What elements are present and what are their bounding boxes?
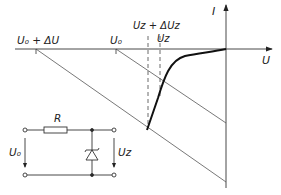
label-uz-plus-duz: Uᴢ + ΔUᴢ <box>133 20 180 31</box>
load-line-u0 <box>116 49 226 123</box>
load-line-u0-plus-du <box>36 49 226 182</box>
zener-diode-symbol <box>86 150 98 160</box>
zener-circuit <box>23 127 116 177</box>
resistor <box>44 127 67 133</box>
output-voltage-label: Uᴢ <box>118 146 132 158</box>
resistor-label: R <box>54 112 61 124</box>
label-uz: Uᴢ <box>157 33 170 44</box>
label-u0-plus-du: U₀ + ΔU <box>17 34 60 46</box>
input-voltage-label: U₀ <box>9 146 22 158</box>
zener-diagram: I U U₀ + ΔU U₀ Uᴢ + ΔUᴢ Uᴢ R U₀ Uᴢ <box>0 0 281 195</box>
i-axis-label: I <box>212 5 215 18</box>
u-axis-label: U <box>262 54 270 67</box>
label-u0: U₀ <box>110 34 123 46</box>
zener-curve <box>147 49 226 130</box>
diagram-canvas: I U U₀ + ΔU U₀ Uᴢ + ΔUᴢ Uᴢ R U₀ Uᴢ <box>0 0 281 195</box>
